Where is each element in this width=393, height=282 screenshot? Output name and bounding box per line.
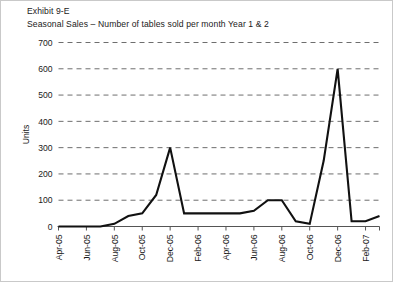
x-axis-tick-label: Oct-06 bbox=[305, 234, 315, 260]
y-axis-tick-label: 200 bbox=[38, 169, 53, 179]
y-axis-tick-label: 100 bbox=[38, 195, 53, 205]
gridlines bbox=[59, 43, 380, 201]
x-axis-tick-labels: Apr-05Jun-05Aug-05Oct-05Dec-05Feb-06Apr-… bbox=[54, 234, 371, 262]
y-axis-tick-label: 600 bbox=[38, 64, 53, 74]
x-axis-tick-label: Apr-05 bbox=[54, 234, 64, 260]
x-axis-tick-label: Dec-05 bbox=[165, 234, 175, 262]
x-axis-tick-label: Feb-06 bbox=[193, 234, 203, 261]
x-axis-tick-label: Aug-06 bbox=[277, 234, 287, 262]
x-axis-tick-label: Feb-07 bbox=[361, 234, 371, 261]
x-axis-tick-label: Jun-06 bbox=[249, 234, 259, 260]
y-axis-tick-labels: 0100200300400500600700 bbox=[38, 38, 53, 232]
y-axis-title: Units bbox=[21, 125, 31, 145]
y-axis-tick-label: 400 bbox=[38, 117, 53, 127]
y-axis-tick-label: 0 bbox=[48, 222, 53, 232]
y-axis-tick-label: 700 bbox=[38, 38, 53, 48]
x-axis-tick-label: Oct-05 bbox=[137, 234, 147, 260]
chart-plot-area: 0100200300400500600700 Apr-05Jun-05Aug-0… bbox=[1, 1, 393, 282]
x-axis bbox=[58, 227, 380, 231]
x-axis-tick-label: Dec-06 bbox=[333, 234, 343, 262]
chart-figure: Exhibit 9-E Seasonal Sales – Number of t… bbox=[0, 0, 393, 282]
x-axis-tick-label: Jun-05 bbox=[82, 234, 92, 260]
x-axis-tick-label: Apr-06 bbox=[221, 234, 231, 260]
y-axis-tick-label: 500 bbox=[38, 90, 53, 100]
y-axis-tick-label: 300 bbox=[38, 143, 53, 153]
x-axis-tick-label: Aug-05 bbox=[110, 234, 120, 262]
